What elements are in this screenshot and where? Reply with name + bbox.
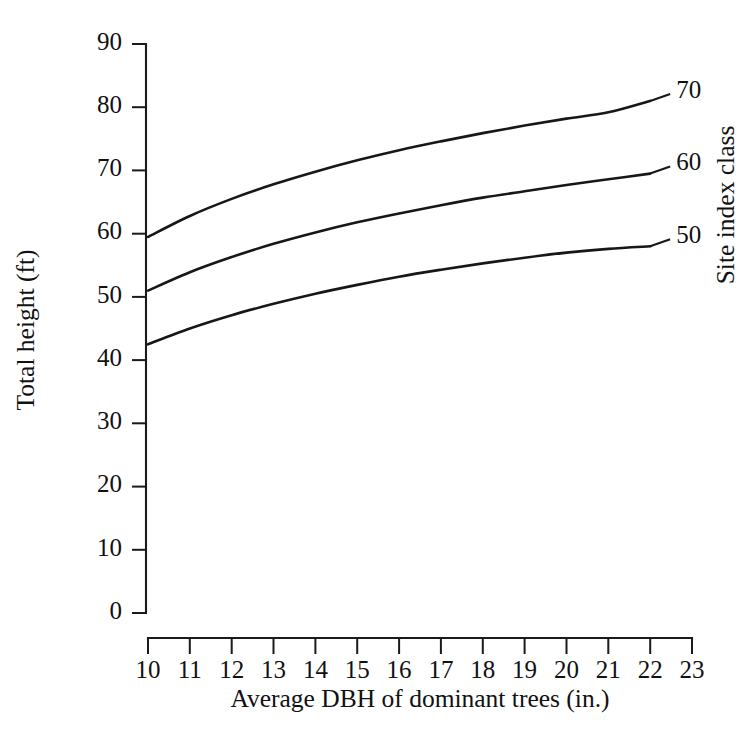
series-labels: 70 60 50 <box>676 76 701 248</box>
y-axis-ticks <box>132 44 146 613</box>
x-tick-label-22: 22 <box>638 656 663 683</box>
x-tick-label-14: 14 <box>303 656 329 683</box>
series-label-50: 50 <box>676 221 701 248</box>
leader-line-60 <box>650 167 670 174</box>
leader-line-70 <box>650 94 670 101</box>
x-tick-label-19: 19 <box>512 656 537 683</box>
y-tick-label-80: 80 <box>97 91 122 118</box>
series-label-70: 70 <box>676 76 701 103</box>
y-tick-label-40: 40 <box>97 344 122 371</box>
y-tick-label-60: 60 <box>97 217 122 244</box>
series-label-60: 60 <box>676 148 701 175</box>
x-tick-label-20: 20 <box>554 656 579 683</box>
y-axis-title: Total height (ft) <box>11 249 40 410</box>
y-tick-label-50: 50 <box>97 281 122 308</box>
series-line-60 <box>148 174 650 291</box>
series-label-leaders <box>650 94 670 246</box>
y-tick-label-70: 70 <box>97 154 122 181</box>
x-axis-ticks <box>148 638 692 654</box>
leader-line-50 <box>650 239 670 246</box>
x-tick-label-10: 10 <box>136 656 161 683</box>
line-chart: 90 80 70 60 50 40 30 20 10 0 <box>0 0 751 747</box>
y-tick-label-30: 30 <box>97 407 122 434</box>
x-tick-label-13: 13 <box>261 656 286 683</box>
series-curves <box>148 101 650 344</box>
x-tick-label-18: 18 <box>470 656 495 683</box>
x-tick-label-23: 23 <box>680 656 705 683</box>
y-tick-label-20: 20 <box>97 470 122 497</box>
x-tick-label-21: 21 <box>596 656 621 683</box>
figure-container: 90 80 70 60 50 40 30 20 10 0 <box>0 0 751 747</box>
x-axis-title: Average DBH of dominant trees (in.) <box>230 684 609 713</box>
y-axis-tick-labels: 90 80 70 60 50 40 30 20 10 0 <box>97 28 122 624</box>
x-tick-label-16: 16 <box>387 656 412 683</box>
y-tick-label-90: 90 <box>97 28 122 55</box>
series-line-70 <box>148 101 650 237</box>
x-tick-label-17: 17 <box>428 656 453 683</box>
x-tick-label-11: 11 <box>178 656 202 683</box>
legend-title: Site index class <box>711 126 740 285</box>
y-tick-label-0: 0 <box>110 597 123 624</box>
x-axis-tick-labels: 10 11 12 13 14 15 16 17 18 19 20 21 22 2… <box>136 656 705 683</box>
y-tick-label-10: 10 <box>97 534 122 561</box>
x-tick-label-12: 12 <box>219 656 244 683</box>
x-tick-label-15: 15 <box>345 656 370 683</box>
